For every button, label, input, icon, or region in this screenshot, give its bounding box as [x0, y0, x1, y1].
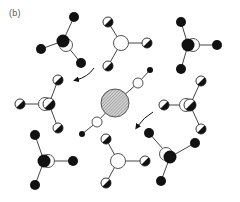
central-hatched-ion [101, 89, 129, 117]
molecule-arm-half-atom [103, 61, 113, 71]
molecule-arm-filled-atom [69, 12, 79, 22]
molecule-arm-half-atom [101, 178, 111, 188]
molecule-arm-half-atom [196, 124, 206, 134]
rotation-arrow-lower [137, 112, 153, 127]
molecule-center-open-atom [114, 36, 129, 51]
chain-small-filled-atom [147, 67, 153, 73]
rotation-arrow-upper [76, 68, 94, 80]
molecule-center-open-atom [111, 154, 126, 169]
molecule-arm-half-atom [15, 99, 25, 109]
molecule-arm-filled-atom [212, 40, 222, 50]
molecule-arm-filled-atom [144, 128, 154, 138]
molecule-arm-half-atom [159, 100, 169, 110]
molecule-arm-filled-atom [30, 130, 40, 140]
molecule-arm-half-atom [142, 38, 152, 48]
chain-open-atom [133, 78, 143, 88]
molecule-center-filled-atom [164, 151, 177, 164]
solvation-diagram [0, 0, 240, 202]
molecule-center-filled-atom [57, 35, 70, 48]
molecule-center-half-atom [184, 99, 196, 111]
chain-open-atom [92, 117, 102, 127]
molecule-arm-half-atom [53, 75, 63, 85]
molecule-arm-half-atom [140, 156, 150, 166]
molecule-arm-filled-atom [68, 156, 78, 166]
molecule-arm-filled-atom [76, 58, 86, 68]
molecule-arm-filled-atom [36, 44, 46, 54]
molecule-arm-filled-atom [176, 64, 186, 74]
molecule-arm-half-atom [196, 76, 206, 86]
molecule-arm-half-atom [53, 123, 63, 133]
molecule-arm-filled-atom [190, 138, 200, 148]
molecule-arm-half-atom [101, 134, 111, 144]
molecule-center-filled-atom [182, 39, 195, 52]
molecule-center-filled-atom [38, 155, 51, 168]
molecule-arm-filled-atom [156, 176, 166, 186]
molecule-arm-filled-atom [30, 180, 40, 190]
atoms-layer [15, 12, 222, 190]
molecule-arm-filled-atom [176, 17, 186, 27]
molecule-arm-half-atom [103, 17, 113, 27]
chain-small-filled-atom [79, 131, 85, 137]
molecule-center-half-atom [43, 98, 55, 110]
